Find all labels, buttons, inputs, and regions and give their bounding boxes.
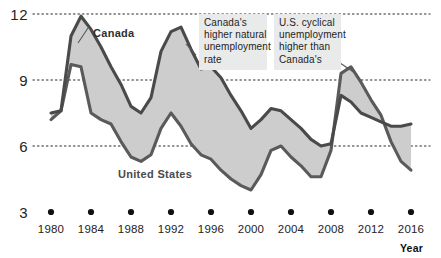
- xtick-label-1988: 1988: [111, 224, 151, 236]
- annotation-line: Canada's: [279, 54, 336, 66]
- series-label-united-states: United States: [118, 168, 192, 180]
- ytick-label-9: 9: [4, 73, 28, 88]
- xtick-label-2016: 2016: [391, 224, 431, 236]
- xtick-label-1992: 1992: [151, 224, 191, 236]
- ytick-label-12: 12: [4, 7, 28, 22]
- xtick-dot-1984: [88, 209, 94, 215]
- xtick-dot-1992: [168, 209, 174, 215]
- unemployment-rate-chart: 12 9 6 3 1980 1984 1988 1992 1996 2000 2…: [0, 0, 441, 258]
- xtick-dot-2008: [328, 209, 334, 215]
- xtick-label-2000: 2000: [231, 224, 271, 236]
- xtick-label-1996: 1996: [191, 224, 231, 236]
- x-axis-tick-dots: [48, 209, 414, 215]
- annotation-line: higher than: [279, 41, 336, 53]
- annotation-line: rate: [204, 54, 262, 66]
- xtick-dot-1988: [128, 209, 134, 215]
- annotation-line: Canada's: [204, 17, 262, 29]
- xtick-label-2008: 2008: [311, 224, 351, 236]
- annotation-line: U.S. cyclical: [279, 17, 336, 29]
- ytick-label-3: 3: [4, 205, 28, 220]
- xtick-dot-1980: [48, 209, 54, 215]
- xtick-dot-2016: [408, 209, 414, 215]
- x-axis-title: Year: [400, 242, 423, 254]
- series-label-canada: Canada: [93, 27, 135, 39]
- annotation-line: higher natural: [204, 29, 262, 41]
- xtick-dot-1996: [208, 209, 214, 215]
- annotation-us-cyclical-unemployment: U.S. cyclical unemployment higher than C…: [274, 14, 341, 70]
- xtick-label-2012: 2012: [351, 224, 391, 236]
- xtick-dot-2012: [368, 209, 374, 215]
- xtick-label-2004: 2004: [271, 224, 311, 236]
- annotation-line: unemployment: [279, 29, 336, 41]
- xtick-dot-2004: [288, 209, 294, 215]
- annotation-canada-natural-unemployment: Canada's higher natural unemployment rat…: [199, 14, 267, 70]
- xtick-label-1980: 1980: [31, 224, 71, 236]
- annotation-line: unemployment: [204, 41, 262, 53]
- xtick-dot-2000: [248, 209, 254, 215]
- xtick-label-1984: 1984: [71, 224, 111, 236]
- ytick-label-6: 6: [4, 139, 28, 154]
